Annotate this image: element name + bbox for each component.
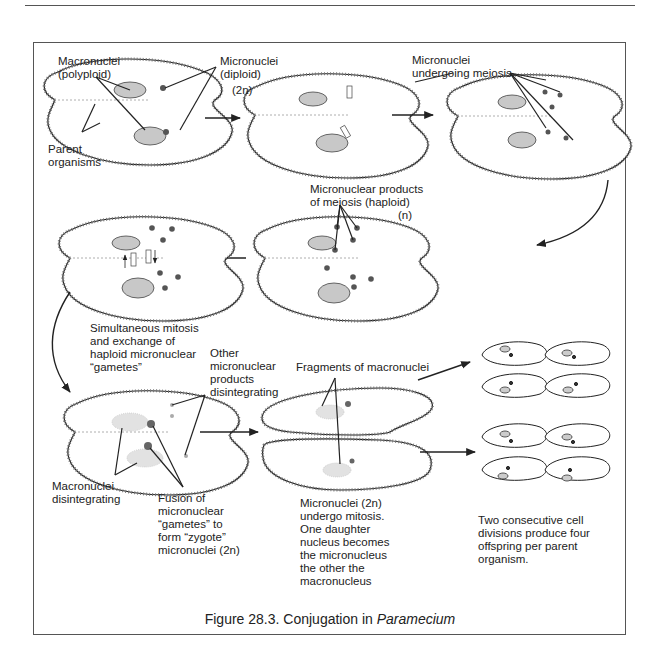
stage-5-gamete-exchange [59,217,243,321]
label-two-divisions: Two consecutive cell divisions produce f… [478,514,590,566]
caption-prefix: Figure 28.3. Conjugation in [205,611,377,627]
label-meiosis-products: Micronuclear products of meiosis (haploi… [310,183,423,209]
label-simultaneous-mitosis: Simultaneous mitosis and exchange of hap… [90,322,199,374]
offspring-cell [545,342,610,366]
arrow-3-to-4 [537,180,608,245]
offspring-cell [545,424,610,448]
macronucleus [134,127,166,145]
label-macronuclei-polyploid: Macronuclei (polyploid) [58,55,120,81]
label-parent-organisms: Parent organisms [48,143,101,169]
figure-caption: Figure 28.3. Conjugation in Paramecium [0,611,660,627]
offspring-cell [545,457,610,481]
label-micronuclei-meiosis: Micronuclei undergoing meiosis [412,54,512,80]
label-macronuclei-disintegrating: Macronuclei disintegrating [52,480,120,506]
offspring-cell [482,424,547,448]
stage-4-haploid-products [254,205,438,321]
label-fusion-zygote: Fusion of micronuclear “gametes” to form… [158,492,240,557]
arrow-5-to-6 [52,292,70,392]
caption-taxon: Paramecium [377,611,456,627]
stage-2-early-meiosis [244,74,428,178]
offspring-cell [545,374,610,398]
label-ploidy-n: (n) [398,209,412,222]
stage-7-exconjugants [262,378,432,490]
label-other-products-disintegrating: Other micronuclear products disintegrati… [210,347,278,399]
offspring-cell [482,342,547,366]
label-micronuclei-mitosis: Micronuclei (2n) undergo mitosis. One da… [300,497,390,588]
stage-3-meiosis [415,73,631,179]
offspring-cell [482,457,547,481]
offspring-cell [482,374,547,398]
stage-8-offspring [482,342,610,481]
label-fragments-macronuclei: Fragments of macronuclei [296,361,429,374]
micronucleus [163,129,169,135]
label-ploidy-2n: (2n) [232,84,252,97]
label-micronuclei-diploid: Micronuclei (diploid) [220,55,278,81]
